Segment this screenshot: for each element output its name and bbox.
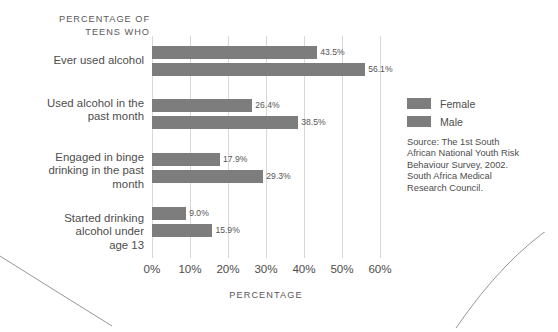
bar-value-label: 29.3% (263, 170, 290, 183)
bar-group: 9.0% 15.9% (152, 207, 380, 237)
bar-female (152, 207, 186, 220)
chart-title: PERCENTAGE OF TEENS WHO (22, 13, 150, 38)
bar-value-label: 17.9% (220, 153, 247, 166)
legend-label: Male (440, 116, 463, 128)
bar-male (152, 63, 365, 76)
decorative-arc-left (0, 250, 144, 330)
bar-male (152, 224, 212, 237)
x-tick-label: 40% (292, 262, 315, 275)
bar-group: 17.9% 29.3% (152, 153, 380, 183)
legend-item-male: Male (407, 114, 475, 129)
source-note: Source: The 1st South African National Y… (407, 137, 555, 194)
bar-row: 15.9% (152, 224, 380, 237)
bar-group: 43.5% 56.1% (152, 46, 380, 76)
bar-female (152, 153, 220, 166)
plot-area: 43.5% 56.1% 26.4% 38.5% 17.9% (152, 36, 380, 258)
bar-value-label: 38.5% (298, 116, 325, 129)
x-tick-label: 50% (330, 262, 353, 275)
bar-value-label: 15.9% (212, 224, 239, 237)
bar-row: 29.3% (152, 170, 380, 183)
x-tick-label: 10% (178, 262, 201, 275)
bar-row: 43.5% (152, 46, 380, 59)
category-label: Engaged in binge drinking in the past mo… (8, 151, 144, 191)
x-tick-label: 30% (254, 262, 277, 275)
category-label: Ever used alcohol (8, 54, 144, 67)
bar-value-label: 26.4% (252, 99, 279, 112)
bar-male (152, 116, 298, 129)
bar-value-label: 43.5% (317, 46, 344, 59)
bar-group: 26.4% 38.5% (152, 99, 380, 129)
x-axis-title: PERCENTAGE (152, 290, 380, 300)
bar-row: 17.9% (152, 153, 380, 166)
x-axis-ticks: 0% 10% 20% 30% 40% 50% 60% (152, 262, 380, 278)
bar-row: 38.5% (152, 116, 380, 129)
bar-row: 56.1% (152, 63, 380, 76)
x-tick-label: 60% (368, 262, 391, 275)
bar-female (152, 99, 252, 112)
x-tick-label: 20% (216, 262, 239, 275)
category-label: Started drinking alcohol under age 13 (8, 212, 144, 252)
legend-swatch-icon (407, 98, 431, 109)
legend-item-female: Female (407, 96, 475, 111)
category-label: Used alcohol in the past month (8, 97, 144, 124)
bar-value-label: 56.1% (365, 63, 392, 76)
bar-row: 9.0% (152, 207, 380, 220)
legend-swatch-icon (407, 116, 431, 127)
legend-label: Female (440, 98, 475, 110)
x-tick-label: 0% (144, 262, 161, 275)
bar-value-label: 9.0% (186, 207, 209, 220)
decorative-arc-right (452, 232, 558, 332)
bar-female (152, 46, 317, 59)
bar-male (152, 170, 263, 183)
chart-legend: Female Male (407, 96, 475, 132)
y-axis-category-labels: Ever used alcohol Used alcohol in the pa… (8, 36, 144, 258)
bar-row: 26.4% (152, 99, 380, 112)
